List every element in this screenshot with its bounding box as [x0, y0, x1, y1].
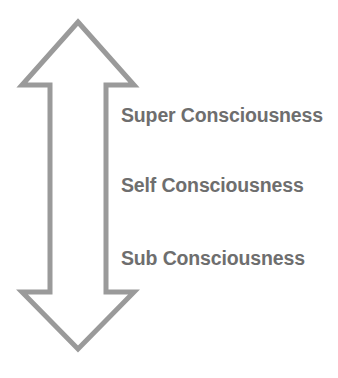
level-label-group: Super Consciousness Self Consciousness S… [0, 0, 338, 378]
level-label-sub-consciousness: Sub Consciousness [121, 249, 305, 269]
level-label-super-consciousness: Super Consciousness [121, 106, 323, 126]
level-label-self-consciousness: Self Consciousness [121, 176, 304, 196]
consciousness-levels-diagram: Super Consciousness Self Consciousness S… [0, 0, 338, 378]
